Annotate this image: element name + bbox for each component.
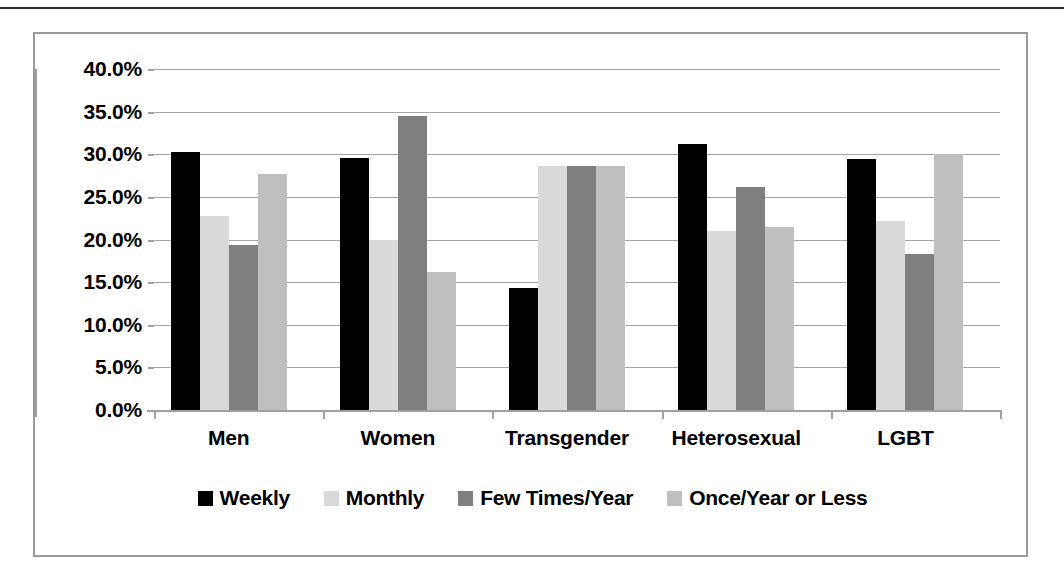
bar[interactable] [538,166,567,410]
legend-label: Weekly [220,486,290,510]
y-axis-tick-label: 40.0% [83,57,142,81]
x-axis-tick-mark [1000,410,1002,419]
legend-item[interactable]: Monthly [324,486,424,510]
bar-group [831,69,1000,410]
legend-swatch-icon [198,491,213,506]
y-axis-tick-label: 10.0% [83,313,142,337]
bar[interactable] [200,216,229,410]
bar[interactable] [707,231,736,410]
y-axis-tick-label: 25.0% [83,185,142,209]
y-axis-tick-labels: 40.0%35.0%30.0%25.0%20.0%15.0%10.0%5.0%0… [35,34,148,559]
x-axis-category-label: Heterosexual [671,426,801,450]
plot-area [154,69,1000,410]
x-axis-tick-mark [323,410,325,419]
bar[interactable] [876,221,905,410]
bar-group-bars [847,69,963,410]
bar-group-bars [678,69,794,410]
bar[interactable] [736,187,765,410]
bar[interactable] [905,254,934,410]
bar-group [154,69,323,410]
legend-item[interactable]: Once/Year or Less [667,486,867,510]
legend-item[interactable]: Weekly [198,486,290,510]
x-axis-category-labels: MenWomenTransgenderHeterosexualLGBT [154,426,1000,466]
page-top-rule [0,7,1064,9]
legend-label: Few Times/Year [480,486,633,510]
x-axis-category-label: Transgender [505,426,629,450]
bar[interactable] [369,240,398,411]
legend-swatch-icon [667,491,682,506]
bar-group-bars [509,69,625,410]
bar[interactable] [596,166,625,410]
y-axis-line [35,69,37,417]
bar[interactable] [171,152,200,410]
legend-swatch-icon [324,491,339,506]
legend-label: Monthly [346,486,424,510]
x-axis-tick-mark [662,410,664,419]
x-axis-tick-mark [831,410,833,419]
x-axis-category-label: Men [208,426,249,450]
x-axis-category-label: Women [361,426,435,450]
bar[interactable] [765,227,794,410]
x-axis-line [147,410,1000,412]
bar[interactable] [678,144,707,410]
y-axis-tick-label: 20.0% [83,228,142,252]
bar-group [492,69,661,410]
chart-frame: 40.0%35.0%30.0%25.0%20.0%15.0%10.0%5.0%0… [33,32,1028,557]
bar-group-bars [340,69,456,410]
legend-label: Once/Year or Less [689,486,867,510]
bar-group-bars [171,69,287,410]
legend-swatch-icon [458,491,473,506]
bar[interactable] [567,166,596,410]
y-axis-tick-label: 35.0% [83,100,142,124]
bar[interactable] [847,159,876,410]
y-axis-tick-label: 5.0% [95,355,142,379]
x-axis-tick-mark [492,410,494,419]
chart-plot-wrapper: 40.0%35.0%30.0%25.0%20.0%15.0%10.0%5.0%0… [35,34,1030,559]
bar[interactable] [258,174,287,410]
y-axis-tick-label: 0.0% [95,398,142,422]
bar-group [323,69,492,410]
bar[interactable] [229,245,258,410]
bar[interactable] [398,116,427,410]
bar[interactable] [509,288,538,410]
x-axis-category-label: LGBT [877,426,933,450]
x-axis-tick-mark [154,410,156,419]
legend-item[interactable]: Few Times/Year [458,486,633,510]
bar-group [662,69,831,410]
bar[interactable] [934,154,963,410]
bar[interactable] [340,158,369,410]
y-axis-tick-label: 30.0% [83,142,142,166]
y-axis-tick-label: 15.0% [83,270,142,294]
bar[interactable] [427,272,456,410]
chart-legend: WeeklyMonthlyFew Times/YearOnce/Year or … [35,486,1030,510]
